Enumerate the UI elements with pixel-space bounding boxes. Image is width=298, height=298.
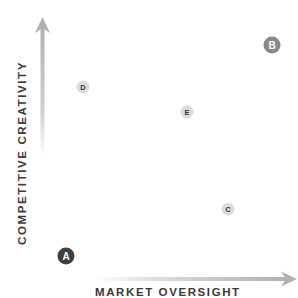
point-b: B — [264, 37, 281, 54]
y-axis-arrow — [35, 17, 50, 156]
point-c: C — [222, 203, 235, 216]
x-axis-arrow — [95, 272, 297, 287]
point-e: E — [181, 106, 194, 119]
y-axis-label: COMPETITIVE CREATIVITY — [16, 61, 28, 245]
point-a: A — [58, 248, 75, 265]
point-d: D — [77, 81, 90, 94]
x-axis-label: MARKET OVERSIGHT — [95, 286, 241, 298]
